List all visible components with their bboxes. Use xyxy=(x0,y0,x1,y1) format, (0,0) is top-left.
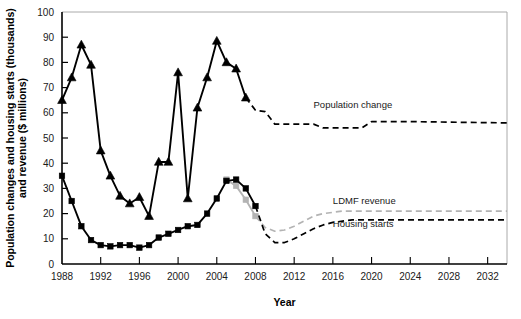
y-axis-title-line-2: and revenue ($ millions) xyxy=(16,78,28,198)
data-point-marker xyxy=(185,223,191,229)
data-point-marker xyxy=(135,193,144,201)
y-axis-title-line-1: Population changes and housing starts (t… xyxy=(4,8,16,268)
y-axis-tick-label: 0 xyxy=(48,259,54,270)
data-point-marker xyxy=(77,40,86,48)
data-point-marker xyxy=(117,242,123,248)
y-axis-tick-label: 40 xyxy=(43,158,55,169)
x-axis-tick-label: 2024 xyxy=(399,271,422,282)
data-point-marker xyxy=(183,194,192,202)
y-axis-tick-label: 60 xyxy=(43,107,55,118)
data-point-marker xyxy=(88,237,94,243)
x-axis-tick-label: 2008 xyxy=(244,271,267,282)
data-point-marker xyxy=(233,177,239,183)
data-point-marker xyxy=(175,227,181,233)
x-axis-tick-label: 1996 xyxy=(128,271,151,282)
y-axis-tick-label: 90 xyxy=(43,32,55,43)
data-point-marker xyxy=(233,183,239,189)
data-point-marker xyxy=(195,222,201,228)
x-axis-title: Year xyxy=(273,296,295,308)
data-point-marker xyxy=(108,244,114,250)
data-point-marker xyxy=(243,186,249,192)
data-point-marker xyxy=(222,58,231,66)
x-axis-tick-label: 1988 xyxy=(51,271,74,282)
data-point-marker xyxy=(203,73,212,81)
x-axis-tick-label: 2020 xyxy=(360,271,383,282)
x-axis-tick-label: 2012 xyxy=(283,271,306,282)
data-point-marker xyxy=(146,242,152,248)
data-point-marker xyxy=(214,196,220,202)
series-label-ldmf-revenue: LDMF revenue xyxy=(333,195,396,206)
data-point-marker xyxy=(58,96,67,104)
x-axis-tick-label: 2028 xyxy=(438,271,461,282)
x-axis-tick-label: 2032 xyxy=(477,271,500,282)
data-point-marker xyxy=(212,36,221,44)
data-series-group xyxy=(58,36,507,250)
y-axis-tick-label: 20 xyxy=(43,208,55,219)
data-point-marker xyxy=(87,60,96,68)
y-axis-tick-label: 30 xyxy=(43,183,55,194)
data-point-marker xyxy=(224,178,230,184)
series-population-change xyxy=(58,36,507,219)
data-point-marker xyxy=(243,197,249,203)
y-axis-tick-label: 80 xyxy=(43,57,55,68)
series-label-population-change: Population change xyxy=(314,99,393,110)
y-axis-tick-label: 70 xyxy=(43,82,55,93)
data-point-marker xyxy=(145,212,154,220)
x-axis-tick-label: 2000 xyxy=(167,271,190,282)
line-chart: 0102030405060708090100 19881992199620002… xyxy=(0,0,521,319)
data-point-marker xyxy=(253,203,258,209)
data-point-marker xyxy=(166,231,172,237)
y-axis-tick-label: 10 xyxy=(43,233,55,244)
data-point-marker xyxy=(127,242,133,248)
data-point-marker xyxy=(67,73,76,81)
data-point-marker xyxy=(193,103,202,111)
data-point-marker xyxy=(106,171,115,179)
data-point-marker xyxy=(253,213,258,219)
data-point-marker xyxy=(204,211,210,217)
data-point-marker xyxy=(69,198,75,204)
series-label-housing-starts: Housing starts xyxy=(333,218,394,229)
x-axis-tick-label: 2016 xyxy=(322,271,345,282)
data-point-marker xyxy=(232,64,241,72)
series-labels-group: Population changeHousing startsLDMF reve… xyxy=(314,99,396,230)
y-axis-tick-label: 50 xyxy=(43,133,55,144)
data-point-marker xyxy=(98,242,104,248)
chart-container: 0102030405060708090100 19881992199620002… xyxy=(0,0,521,319)
data-point-marker xyxy=(96,146,105,154)
data-point-marker xyxy=(174,68,183,76)
x-axis-tick-label: 1992 xyxy=(90,271,113,282)
data-point-marker xyxy=(116,191,125,199)
data-point-marker xyxy=(156,235,162,241)
data-point-marker xyxy=(59,173,65,179)
data-point-marker xyxy=(79,223,85,229)
data-point-marker xyxy=(241,93,250,101)
y-axis: 0102030405060708090100 xyxy=(37,7,68,270)
x-axis: 1988199219962000200420082012201620202024… xyxy=(51,257,507,282)
plot-area-background xyxy=(62,12,507,264)
y-axis-tick-label: 100 xyxy=(37,7,54,18)
x-axis-tick-label: 2004 xyxy=(206,271,229,282)
data-point-marker xyxy=(137,245,143,251)
